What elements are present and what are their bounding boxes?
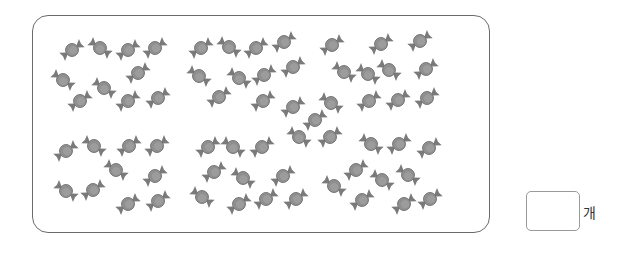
wrapped-candy-icon: [250, 63, 277, 87]
wrapped-candy-icon: [187, 36, 214, 60]
wrapped-candy-icon: [355, 89, 382, 113]
wrapped-candy-icon: [357, 132, 384, 156]
unit-label: 개: [583, 202, 596, 222]
wrapped-candy-icon: [279, 95, 306, 119]
wrapped-candy-icon: [318, 33, 345, 57]
wrapped-candy-icon: [416, 187, 443, 211]
wrapped-candy-icon: [144, 189, 171, 213]
wrapped-candy-icon: [194, 135, 221, 159]
wrapped-candy-icon: [252, 187, 279, 211]
wrapped-candy-icon: [390, 192, 417, 216]
wrapped-candy-icon: [141, 164, 168, 188]
wrapped-candy-icon: [141, 36, 168, 60]
wrapped-candy-icon: [330, 60, 357, 84]
wrapped-candy-icon: [269, 164, 296, 188]
wrapped-candy-icon: [301, 108, 328, 132]
wrapped-candy-icon: [282, 187, 309, 211]
wrapped-candy-icon: [102, 158, 129, 182]
wrapped-candy-icon: [90, 76, 117, 100]
wrapped-candy-icon: [144, 86, 171, 110]
answer-input-box[interactable]: [526, 191, 580, 231]
wrapped-candy-icon: [270, 30, 297, 54]
wrapped-candy-icon: [225, 66, 252, 90]
wrapped-candy-icon: [114, 192, 141, 216]
wrapped-candy-icon: [242, 36, 269, 60]
wrapped-candy-icon: [115, 134, 142, 158]
wrapped-candy-icon: [348, 188, 375, 212]
wrapped-candy-icon: [354, 62, 381, 86]
wrapped-candy-icon: [249, 89, 276, 113]
wrapped-candy-icon: [80, 134, 107, 158]
wrapped-candy-icon: [415, 136, 442, 160]
wrapped-candy-icon: [412, 57, 439, 81]
wrapped-candy-icon: [200, 160, 227, 184]
wrapped-candy-icon: [229, 166, 256, 190]
wrapped-candy-icon: [406, 29, 433, 53]
wrapped-candy-icon: [394, 163, 421, 187]
wrapped-candy-icon: [52, 139, 79, 163]
wrapped-candy-icon: [114, 89, 141, 113]
wrapped-candy-icon: [66, 89, 93, 113]
wrapped-candy-icon: [219, 135, 246, 159]
wrapped-candy-icon: [413, 86, 440, 110]
wrapped-candy-icon: [205, 85, 232, 109]
wrapped-candy-icon: [316, 125, 343, 149]
wrapped-candy-icon: [79, 178, 106, 202]
wrapped-candy-icon: [248, 135, 275, 159]
wrapped-candy-icon: [52, 179, 79, 203]
wrapped-candy-icon: [185, 64, 212, 88]
wrapped-candy-icon: [225, 192, 252, 216]
wrapped-candy-icon: [114, 38, 141, 62]
wrapped-candy-icon: [49, 68, 76, 92]
wrapped-candy-icon: [368, 168, 395, 192]
wrapped-candy-icon: [86, 36, 113, 60]
wrapped-candy-icon: [124, 61, 151, 85]
wrapped-candy-icon: [342, 158, 369, 182]
wrapped-candy-icon: [215, 35, 242, 59]
wrapped-candy-icon: [384, 88, 411, 112]
wrapped-candy-icon: [58, 38, 85, 62]
wrapped-candy-icon: [143, 134, 170, 158]
wrapped-candy-icon: [367, 32, 394, 56]
wrapped-candy-icon: [188, 185, 215, 209]
wrapped-candy-icon: [320, 174, 347, 198]
wrapped-candy-icon: [385, 132, 412, 156]
wrapped-candy-icon: [375, 58, 402, 82]
wrapped-candy-icon: [279, 55, 306, 79]
